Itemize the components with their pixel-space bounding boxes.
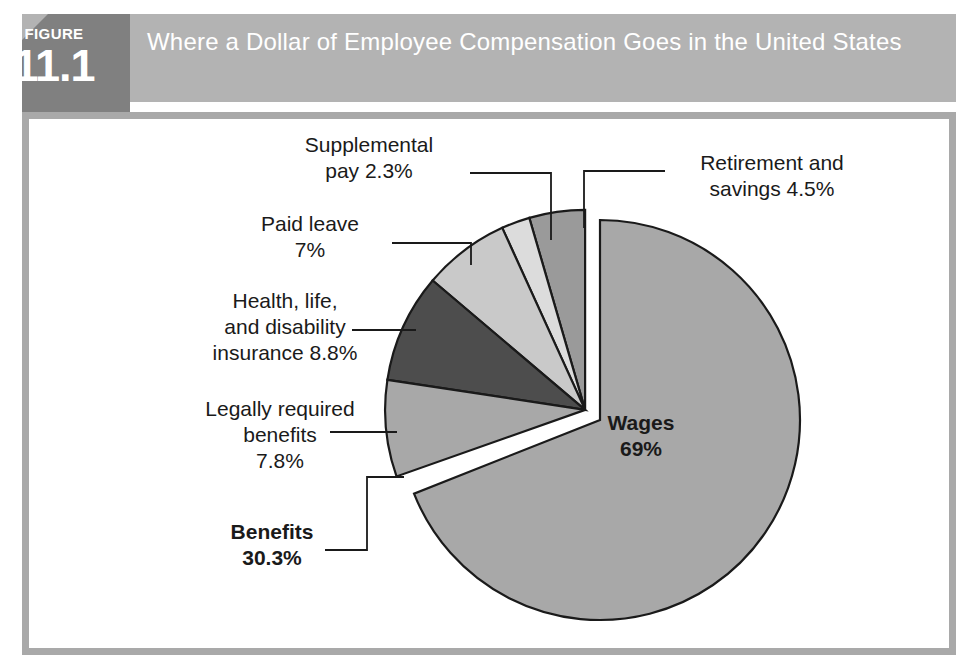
slice-label-retirement-savings: Retirement and savings 4.5% (672, 150, 872, 202)
pie-chart (0, 0, 976, 670)
group-label-benefits: Benefits 30.3% (182, 519, 362, 571)
slice-label-wages: Wages 69% (566, 410, 716, 462)
slice-label-supplemental-pay: Supplemental pay 2.3% (256, 132, 482, 184)
slice-label-legally-required-benefits: Legally required benefits 7.8% (160, 396, 400, 474)
slice-label-paid-leave: Paid leave 7% (222, 211, 398, 263)
slice-label-health-life-disability: Health, life, and disability insurance 8… (166, 288, 404, 366)
figure-container: FIGURE 11.1 Where a Dollar of Employee C… (0, 0, 976, 670)
